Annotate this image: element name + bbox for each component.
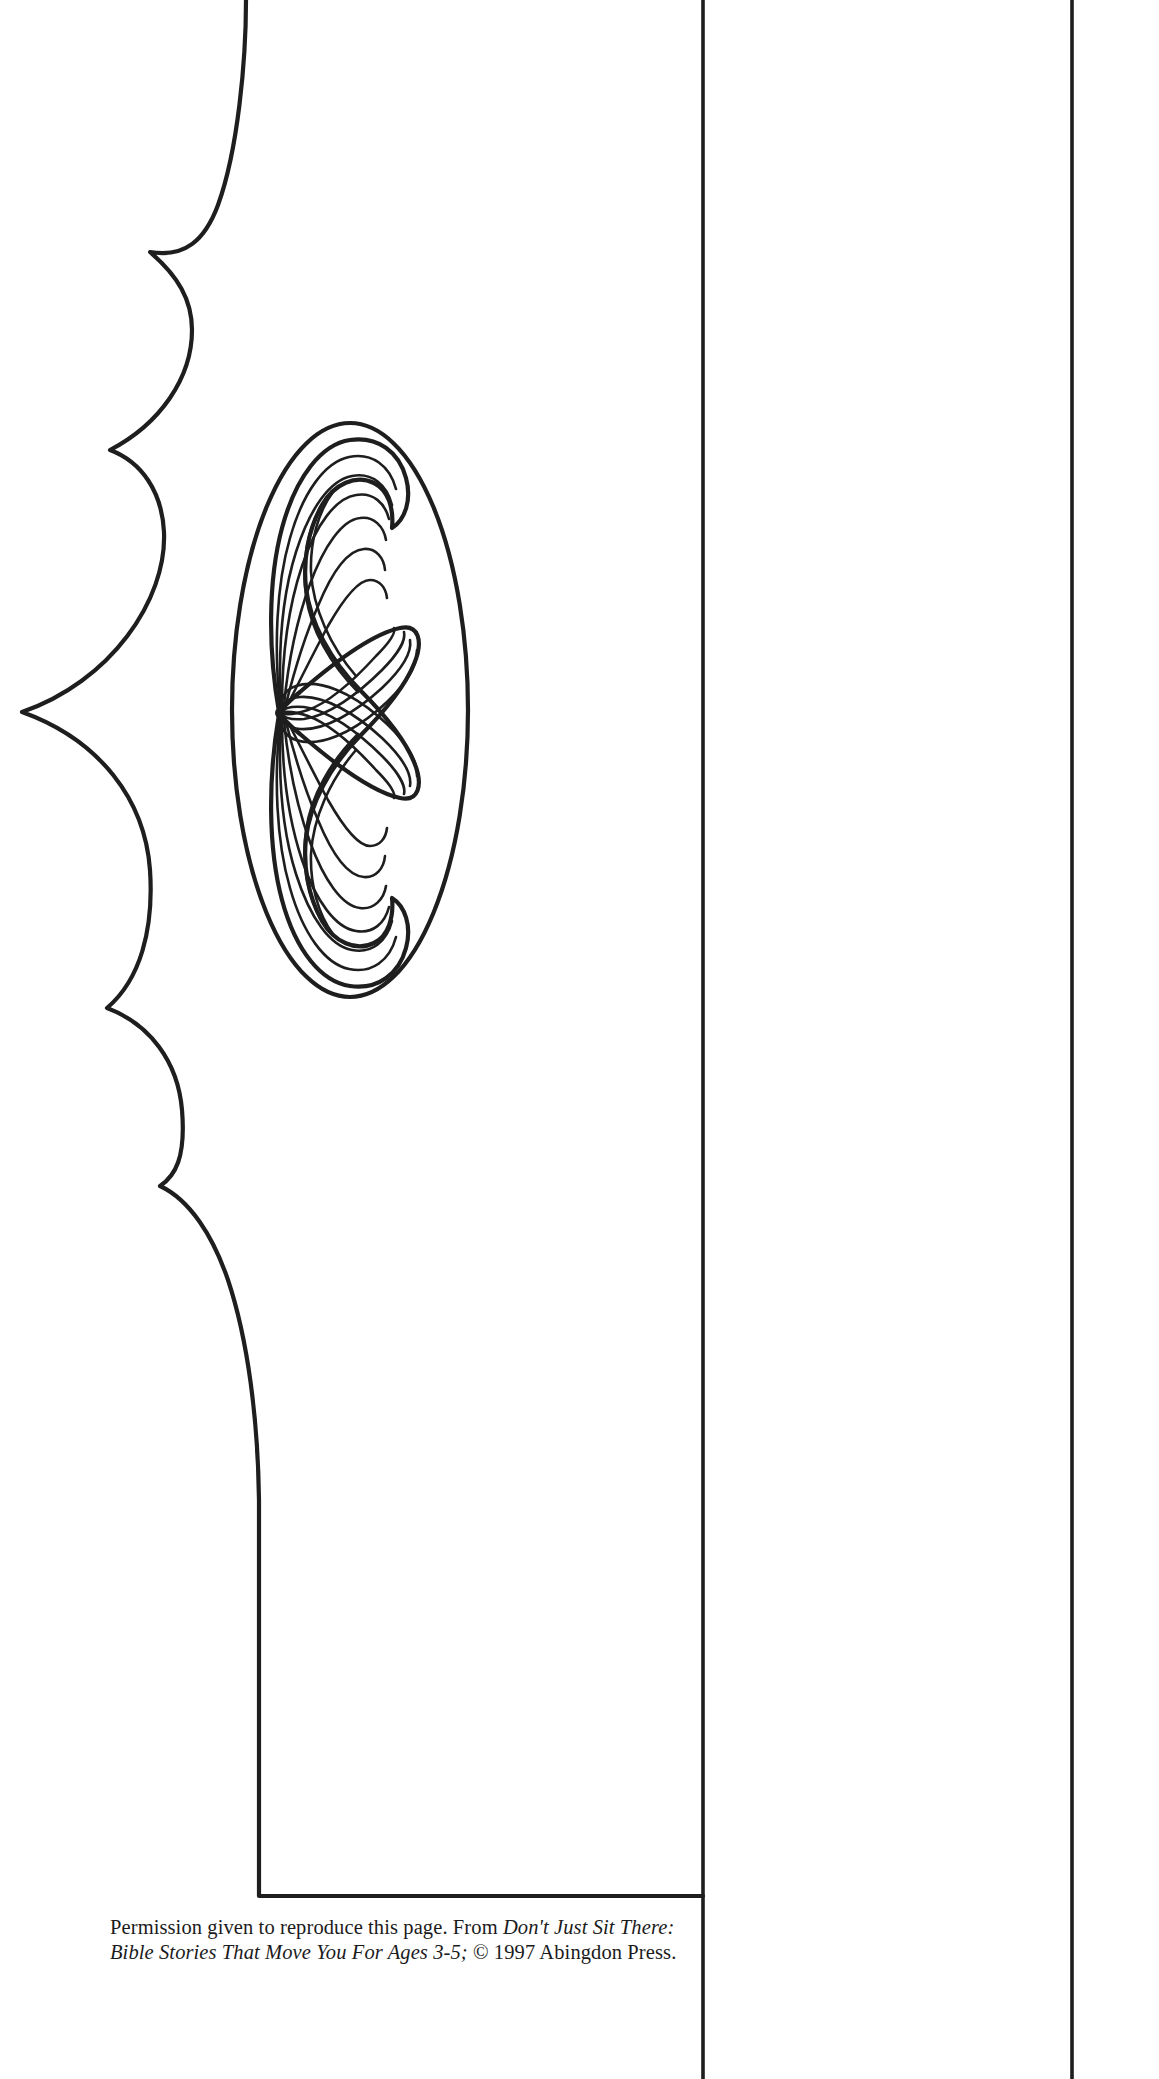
- mustache-oval: [232, 423, 468, 997]
- caption-book-title-part1: Don't Just Sit There:: [503, 1916, 674, 1938]
- caption-line1-plain: Permission given to reproduce this page.…: [110, 1916, 503, 1938]
- mustache-center-knot: [275, 708, 286, 719]
- mustache-drawing: [271, 439, 419, 986]
- copyright-caption: Permission given to reproduce this page.…: [110, 1915, 730, 1965]
- caption-line2-plain: © 1997 Abingdon Press.: [468, 1941, 677, 1963]
- printable-page: Permission given to reproduce this page.…: [0, 0, 1159, 2079]
- artwork-canvas: [0, 0, 1159, 2079]
- caption-book-title-part2: Bible Stories That Move You For Ages 3-5…: [110, 1941, 468, 1963]
